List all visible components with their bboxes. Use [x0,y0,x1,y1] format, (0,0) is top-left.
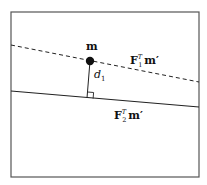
point-m [86,57,94,65]
line-1-label: FT1m′ [130,53,159,69]
epipolar-distance-diagram: m d1 FT1m′ FT2m′ [0,0,207,185]
line-2-label: FT2m′ [114,108,143,124]
frame-border [11,12,199,177]
point-m-label: m [86,40,98,53]
